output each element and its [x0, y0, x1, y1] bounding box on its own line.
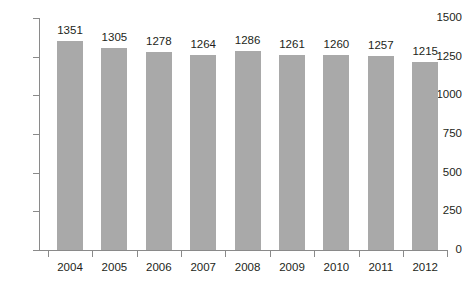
x-axis-tick [359, 251, 360, 257]
y-axis-tick [33, 18, 39, 19]
bar-value-label: 1260 [314, 39, 358, 51]
bar [323, 55, 349, 250]
bar [412, 62, 438, 250]
bar-value-label: 1257 [359, 40, 403, 52]
x-axis-line [39, 250, 448, 251]
plot-area: 0250500750100012501500 20042005200620072… [0, 0, 462, 286]
x-axis-tick-label: 2008 [226, 262, 270, 274]
x-axis-tick [92, 251, 93, 257]
x-axis-tick-label: 2011 [359, 262, 403, 274]
x-axis-tick-label: 2010 [314, 262, 358, 274]
bar-value-label: 1286 [226, 35, 270, 47]
bar [57, 41, 83, 250]
bar-chart: 0250500750100012501500 20042005200620072… [0, 0, 462, 286]
bar-value-label: 1215 [403, 46, 447, 58]
bar [101, 48, 127, 250]
y-axis-tick [33, 134, 39, 135]
bar [190, 55, 216, 250]
x-axis-tick [137, 251, 138, 257]
bar [146, 52, 172, 250]
x-axis-tick-label: 2004 [48, 262, 92, 274]
bar-value-label: 1264 [181, 39, 225, 51]
y-axis-tick [33, 250, 39, 251]
bar [368, 56, 394, 250]
y-axis-tick [33, 211, 39, 212]
x-axis-tick [181, 251, 182, 257]
y-axis-tick [33, 95, 39, 96]
y-axis-tick-label: 1500 [432, 12, 462, 24]
x-axis-tick [270, 251, 271, 257]
x-axis-tick-label: 2006 [137, 262, 181, 274]
y-axis-line [39, 18, 40, 251]
bar-value-label: 1305 [92, 32, 136, 44]
bar [279, 55, 305, 250]
bar-value-label: 1278 [137, 36, 181, 48]
x-axis-tick [225, 251, 226, 257]
bar [235, 51, 261, 250]
x-axis-tick-label: 2012 [403, 262, 447, 274]
x-axis-tick [403, 251, 404, 257]
bar-value-label: 1261 [270, 39, 314, 51]
x-axis-tick [314, 251, 315, 257]
x-axis-tick-label: 2009 [270, 262, 314, 274]
y-axis-tick [33, 57, 39, 58]
x-axis-tick [48, 251, 49, 257]
bar-value-label: 1351 [48, 25, 92, 37]
x-axis-tick-label: 2005 [92, 262, 136, 274]
x-axis-tick-label: 2007 [181, 262, 225, 274]
x-axis-tick [447, 251, 448, 257]
y-axis-tick [33, 173, 39, 174]
